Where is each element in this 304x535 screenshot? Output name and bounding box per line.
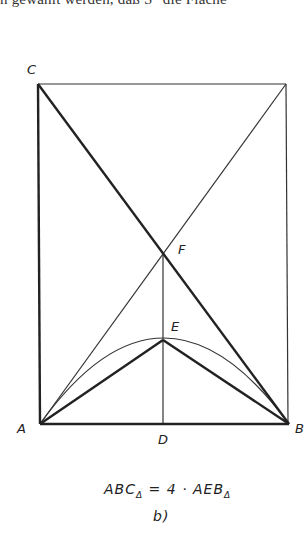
area-formula: ABCΔ = 4 · AEBΔ <box>103 481 231 500</box>
label-B: B <box>295 421 304 436</box>
rectangle-right-edge <box>286 84 288 424</box>
parabola-arc-A-E-B <box>40 338 289 424</box>
label-C: C <box>27 62 37 77</box>
figure-caption: b) <box>153 508 169 524</box>
line-AE <box>40 340 163 424</box>
line-AC <box>38 84 40 424</box>
label-D: D <box>158 432 168 447</box>
line-EB <box>163 340 289 424</box>
label-F: F <box>178 242 186 257</box>
label-E: E <box>171 319 180 334</box>
label-A: A <box>16 421 26 436</box>
geometry-diagram: C A B D E F ABCΔ = 4 · AEBΔ b) <box>0 0 304 535</box>
